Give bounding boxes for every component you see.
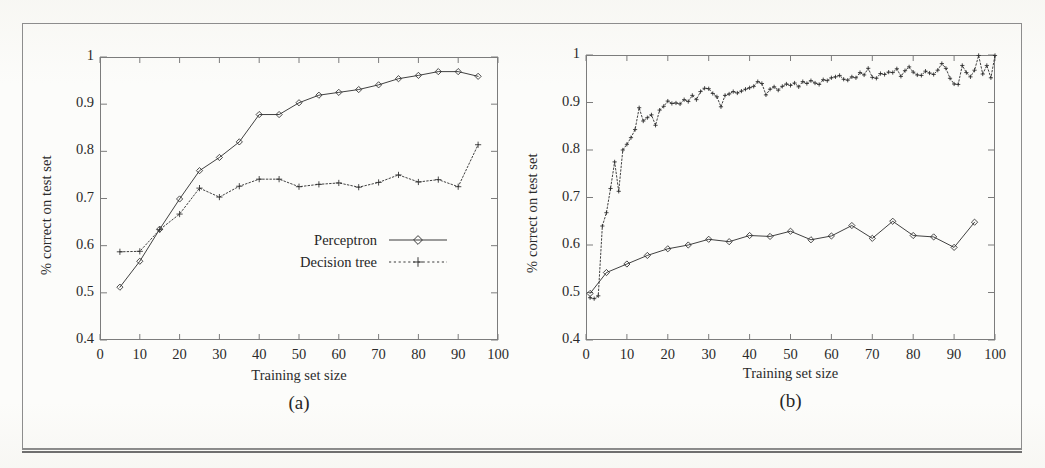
series-markers-decision-tree xyxy=(588,53,997,300)
y-tick-label: 0.4 xyxy=(538,330,580,347)
series-line-decision-tree xyxy=(590,55,995,298)
legend-key-decision-tree-a xyxy=(387,255,449,269)
y-tick-label: 0.6 xyxy=(52,236,94,253)
legend-label-perceptron-a: Perceptron xyxy=(314,232,377,249)
legend-row-perceptron-a: Perceptron xyxy=(300,229,449,251)
series-markers-perceptron xyxy=(587,218,978,296)
y-tick-label: 0.7 xyxy=(538,188,580,205)
y-tick-label: 1 xyxy=(538,45,580,62)
plot-area-b xyxy=(586,55,995,340)
y-tick-label: 0.5 xyxy=(538,283,580,300)
panel-caption-b: (b) xyxy=(586,390,995,412)
legend-row-decision-tree-a: Decision tree xyxy=(300,251,449,273)
chart-panel-a: % correct on test set Training set size … xyxy=(0,0,522,468)
scanned-figure-page: % correct on test set Training set size … xyxy=(0,0,1045,468)
x-tick-label: 100 xyxy=(971,346,1019,363)
chart-panel-b: % correct on test set Training set size … xyxy=(500,0,1045,468)
y-tick-label: 0.7 xyxy=(52,189,94,206)
y-tick-label: 0.6 xyxy=(538,235,580,252)
y-axis-label-a: % correct on test set xyxy=(38,155,55,275)
y-tick-label: 0.8 xyxy=(52,141,94,158)
series-line-perceptron xyxy=(590,221,974,293)
y-tick-label: 0.5 xyxy=(52,283,94,300)
legend-a: Perceptron Decision tree xyxy=(300,229,449,273)
legend-label-decision-tree-a: Decision tree xyxy=(300,254,377,271)
y-axis-label-b: % correct on test set xyxy=(524,153,541,273)
y-tick-label: 0.8 xyxy=(538,140,580,157)
x-axis-label-a: Training set size xyxy=(100,367,498,384)
legend-key-perceptron-a xyxy=(387,233,449,247)
plot-canvas-a xyxy=(100,57,498,340)
plot-canvas-b xyxy=(586,55,995,340)
y-tick-label: 0.4 xyxy=(52,330,94,347)
y-tick-label: 0.9 xyxy=(52,94,94,111)
x-axis-label-b: Training set size xyxy=(586,365,995,382)
y-tick-label: 1 xyxy=(52,47,94,64)
plot-area-a xyxy=(100,57,498,340)
panel-caption-a: (a) xyxy=(100,392,498,414)
y-tick-label: 0.9 xyxy=(538,93,580,110)
